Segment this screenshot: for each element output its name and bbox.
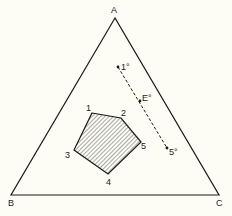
pentagon-point-label-5: 5 [141,141,146,151]
vertex-label-a: A [111,5,117,15]
point-e-degree [139,100,142,103]
point-1-degree [117,66,120,69]
vertex-label-b: B [8,198,14,208]
pentagon-point-label-1: 1 [86,103,91,113]
pentagon-point-label-4: 4 [106,177,111,187]
point-label-5-degree: 5° [169,147,178,157]
point-label-e-degree: E° [142,93,152,103]
point-5-degree [166,147,169,150]
hatched-pentagon-region [74,113,141,174]
vertex-label-c: C [216,198,223,208]
point-label-1-degree: 1° [121,62,130,72]
pentagon-point-label-3: 3 [65,150,70,160]
ternary-diagram: A B C 1 2 5 4 3 1° E° 5° [0,0,232,216]
triangle-outline [11,18,219,195]
pentagon-point-label-2: 2 [121,108,126,118]
